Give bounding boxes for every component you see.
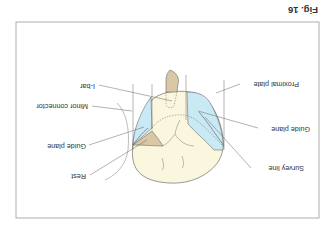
label-i-bar: I-bar	[80, 82, 95, 91]
label-proximal-plate: Proximal plate	[253, 80, 299, 89]
figure-caption: Fig. 16	[288, 5, 318, 16]
label-guide-plane-left: Guide plane	[47, 142, 86, 151]
label-guide-plane-right: Guide plane	[271, 125, 310, 134]
dental-diagram: I-bar Minor connector Guide plane Rest P…	[0, 0, 332, 233]
figure-container: I-bar Minor connector Guide plane Rest P…	[0, 0, 332, 233]
label-minor-connector: Minor connector	[36, 102, 88, 111]
label-survey-line: Survey line	[268, 164, 304, 173]
label-rest: Rest	[71, 172, 86, 181]
